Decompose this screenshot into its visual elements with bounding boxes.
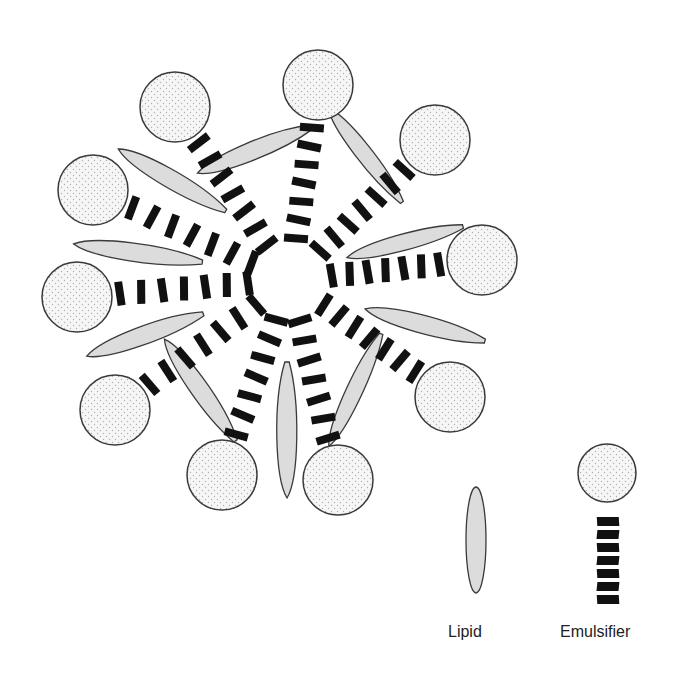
emulsifier-tail-segment bbox=[244, 369, 269, 386]
legend-emulsifier-label: Emulsifier bbox=[560, 623, 630, 641]
emulsifier-tail-segment bbox=[397, 256, 409, 281]
micelle bbox=[42, 50, 517, 515]
emulsifier-head bbox=[58, 155, 128, 225]
emulsifier-tail-segment bbox=[389, 349, 411, 372]
legend-emulsifier-tail-segment bbox=[597, 517, 620, 526]
emulsifier-tail-segment bbox=[143, 205, 161, 230]
emulsifier-tail-segment bbox=[164, 213, 180, 238]
emulsifier-tail-segment bbox=[243, 219, 268, 238]
legend-emulsifier-tail-segment bbox=[596, 556, 619, 565]
legend-emulsifier-tail-segment bbox=[596, 582, 619, 591]
emulsifier-tail-segment bbox=[114, 281, 125, 306]
emulsifier-tail-segment bbox=[345, 315, 365, 340]
emulsifier-tail-segment bbox=[309, 240, 332, 262]
emulsifier-tail-segment bbox=[306, 392, 331, 407]
emulsifier-tail-segment bbox=[381, 258, 390, 282]
emulsifier-head bbox=[283, 50, 353, 120]
emulsifier-tail-segment bbox=[287, 313, 312, 328]
emulsifier-tail-segment bbox=[250, 351, 275, 365]
emulsifier-tail-segment bbox=[351, 199, 373, 223]
emulsifier-tail-segment bbox=[193, 332, 213, 357]
micelle-diagram bbox=[0, 0, 686, 676]
emulsifier-tail-segment bbox=[257, 330, 282, 347]
emulsifier-tail-segment bbox=[264, 313, 289, 327]
legend-emulsifier-tail-segment bbox=[597, 543, 620, 552]
emulsifier-tail-segment bbox=[284, 234, 309, 244]
emulsifier-tail-segment bbox=[362, 259, 374, 284]
emulsifier-tail-segment bbox=[292, 334, 317, 346]
emulsifier-tail-segment bbox=[245, 293, 267, 316]
emulsifier-tail-segment bbox=[137, 280, 145, 304]
emulsifier-head bbox=[140, 72, 210, 142]
legend-emulsifier-tail-segment bbox=[597, 595, 620, 604]
emulsifier-tail-segment bbox=[315, 431, 340, 446]
emulsifier-tail-segment bbox=[328, 304, 350, 327]
emulsifier-tail-segment bbox=[345, 262, 354, 286]
emulsifier-tail-segment bbox=[301, 374, 326, 386]
emulsifier-tail-segment bbox=[297, 353, 322, 368]
emulsifier-tail-segment bbox=[291, 177, 316, 190]
lipid bbox=[321, 330, 388, 449]
emulsifier-tail-segment bbox=[242, 271, 253, 296]
emulsifier-tail-segment bbox=[180, 276, 188, 300]
emulsifier-tail-segment bbox=[232, 201, 256, 222]
legend-lipid-shape bbox=[466, 487, 486, 593]
emulsifier-tail-segment bbox=[314, 293, 334, 318]
emulsifier-tail-segment bbox=[297, 140, 322, 153]
emulsifier-tail-segment bbox=[326, 263, 338, 288]
emulsifier-tail-segment bbox=[433, 252, 445, 277]
emulsifier-tail-segment bbox=[220, 184, 245, 203]
emulsifier-head bbox=[80, 375, 150, 445]
emulsifier-head bbox=[303, 445, 373, 515]
emulsifier-tail-segment bbox=[311, 413, 336, 425]
legend-emulsifier-tail-segment bbox=[596, 530, 619, 539]
legend bbox=[466, 444, 636, 604]
emulsifier-tail-segment bbox=[337, 213, 360, 235]
legend-emulsifier-head bbox=[578, 444, 636, 502]
emulsifier-tail-segment bbox=[183, 223, 201, 248]
emulsifier-tail-segment bbox=[223, 241, 241, 266]
emulsifier-tail-segment bbox=[323, 226, 345, 250]
emulsifier-tail-segment bbox=[157, 278, 168, 303]
emulsifier-tail-segment bbox=[230, 407, 255, 424]
emulsifier-tail-segment bbox=[294, 160, 319, 170]
emulsifier-tail-segment bbox=[237, 389, 262, 403]
emulsifier-tail-segment bbox=[229, 306, 249, 331]
emulsifier-head bbox=[187, 440, 257, 510]
emulsifier-tail-segment bbox=[210, 320, 232, 343]
emulsifier-molecule bbox=[42, 262, 254, 332]
legend-lipid-label: Lipid bbox=[448, 623, 482, 641]
emulsifier-tail-segment bbox=[204, 232, 220, 257]
emulsifier-tail-segment bbox=[200, 274, 211, 299]
emulsifier-tail-segment bbox=[244, 250, 260, 275]
emulsifier-head bbox=[400, 105, 470, 175]
lipid bbox=[194, 118, 316, 181]
emulsifier-head bbox=[447, 225, 517, 295]
emulsifier-tail-segment bbox=[289, 197, 314, 207]
emulsifier-tail-segment bbox=[286, 213, 311, 226]
lipid bbox=[277, 362, 297, 498]
emulsifier-tail-segment bbox=[223, 273, 231, 297]
legend-emulsifier-tail-segment bbox=[597, 569, 620, 578]
emulsifier-tail-segment bbox=[417, 254, 426, 278]
emulsifier-head bbox=[42, 262, 112, 332]
emulsifier-head bbox=[415, 362, 485, 432]
